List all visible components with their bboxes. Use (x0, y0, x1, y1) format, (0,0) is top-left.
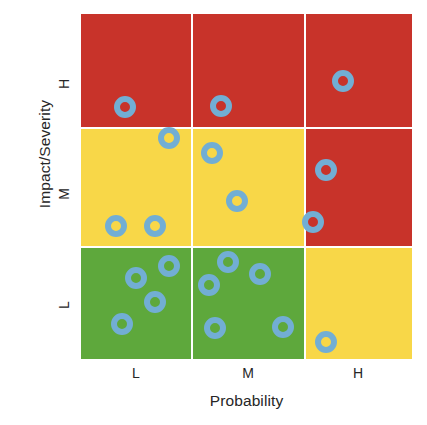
risk-cell-med-prob-high-impact (192, 14, 305, 128)
gridline-horizontal-1 (81, 127, 412, 129)
y-axis-title: Impact/Severity (36, 29, 54, 279)
data-point-ring (226, 190, 248, 212)
data-point-ring (125, 267, 147, 289)
risk-cell-med-prob-low-impact (192, 247, 305, 359)
data-point-ring (217, 251, 239, 273)
data-point-ring (302, 211, 324, 233)
y-tick-label-low: L (56, 292, 72, 318)
data-point-ring (332, 70, 354, 92)
data-point-ring (158, 127, 180, 149)
risk-matrix-figure: Impact/Severity H M L (0, 0, 427, 425)
gridline-vertical-2 (304, 14, 306, 359)
data-point-ring (201, 142, 223, 164)
data-point-ring (315, 159, 337, 181)
x-axis-title: Probability (81, 392, 412, 410)
data-point-ring (144, 215, 166, 237)
data-point-ring (198, 274, 220, 296)
data-point-ring (105, 215, 127, 237)
risk-cell-low-prob-high-impact (81, 14, 192, 128)
x-tick-label-low: L (116, 365, 156, 381)
data-point-ring (144, 291, 166, 313)
data-point-ring (204, 317, 226, 339)
data-point-ring (249, 263, 271, 285)
data-point-ring (210, 95, 232, 117)
data-point-ring (114, 96, 136, 118)
data-point-ring (272, 316, 294, 338)
y-tick-label-high: H (56, 71, 72, 97)
risk-matrix-plot-area (81, 14, 412, 359)
x-tick-label-medium: M (228, 365, 268, 381)
gridline-vertical-1 (191, 14, 193, 359)
x-tick-label-high: H (338, 365, 378, 381)
data-point-ring (111, 313, 133, 335)
data-point-ring (158, 255, 180, 277)
gridline-horizontal-2 (81, 246, 412, 248)
data-point-ring (315, 331, 337, 353)
risk-cell-high-prob-high-impact (305, 14, 412, 128)
y-tick-label-medium: M (56, 181, 72, 207)
